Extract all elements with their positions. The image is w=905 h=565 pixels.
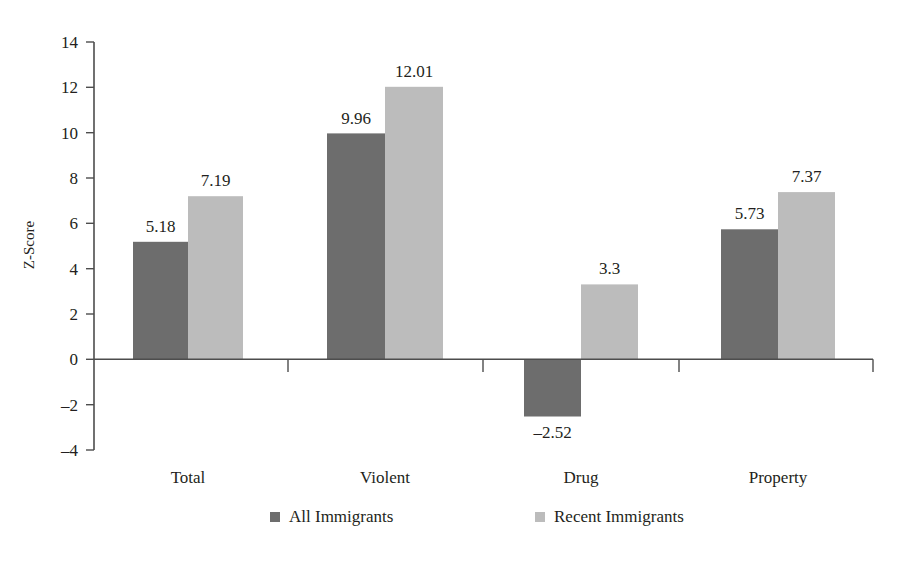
bar-group-violent: 9.96 12.01	[327, 62, 443, 359]
value-label-property-all-immigrants: 5.73	[735, 204, 765, 223]
bar-chart: Z-Score 14 12 10 8 6 4 2 0 –2 –4	[0, 0, 905, 565]
y-axis-title: Z-Score	[21, 221, 37, 270]
y-tick-label-10: 10	[61, 124, 78, 143]
value-label-total-recent-immigrants: 7.19	[201, 171, 231, 190]
y-axis-ticks	[86, 42, 94, 450]
value-label-violent-all-immigrants: 9.96	[341, 109, 371, 128]
y-tick-label-6: 6	[70, 214, 79, 233]
y-tick-label-8: 8	[70, 169, 79, 188]
category-label-total: Total	[171, 468, 206, 487]
legend-label-all-immigrants: All Immigrants	[289, 507, 393, 526]
legend-swatch-all-immigrants	[270, 512, 280, 522]
value-label-drug-recent-immigrants: 3.3	[599, 259, 620, 278]
bar-drug-all-immigrants	[524, 359, 581, 416]
bar-total-recent-immigrants	[188, 196, 243, 359]
y-tick-label-0: 0	[70, 350, 79, 369]
legend-swatch-recent-immigrants	[535, 512, 545, 522]
value-label-violent-recent-immigrants: 12.01	[395, 62, 433, 81]
category-label-violent: Violent	[360, 468, 410, 487]
bar-drug-recent-immigrants	[581, 284, 638, 359]
value-label-property-recent-immigrants: 7.37	[792, 167, 822, 186]
x-axis-category-labels: Total Violent Drug Property	[171, 468, 808, 487]
bar-group-total: 5.18 7.19	[133, 171, 243, 359]
y-axis-tick-labels: 14 12 10 8 6 4 2 0 –2 –4	[60, 33, 79, 460]
y-tick-label-12: 12	[61, 78, 78, 97]
value-label-total-all-immigrants: 5.18	[146, 217, 176, 236]
y-tick-label-14: 14	[61, 33, 79, 52]
y-tick-label-2: 2	[70, 305, 79, 324]
value-label-drug-all-immigrants: –2.52	[532, 423, 571, 442]
bar-property-all-immigrants	[721, 229, 778, 359]
legend-item-recent-immigrants[interactable]: Recent Immigrants	[535, 507, 684, 526]
bar-violent-all-immigrants	[327, 133, 385, 359]
bar-group-drug: –2.52 3.3	[524, 259, 638, 442]
category-label-drug: Drug	[564, 468, 599, 487]
bar-violent-recent-immigrants	[385, 87, 443, 360]
legend-label-recent-immigrants: Recent Immigrants	[554, 507, 684, 526]
bar-total-all-immigrants	[133, 242, 188, 359]
y-tick-label-4: 4	[70, 260, 79, 279]
chart-legend: All Immigrants Recent Immigrants	[270, 507, 684, 526]
legend-item-all-immigrants[interactable]: All Immigrants	[270, 507, 393, 526]
bar-group-property: 5.73 7.37	[721, 167, 835, 359]
chart-canvas: Z-Score 14 12 10 8 6 4 2 0 –2 –4	[0, 0, 905, 565]
y-tick-label-neg4: –4	[60, 441, 79, 460]
category-label-property: Property	[749, 468, 808, 487]
y-tick-label-neg2: –2	[60, 396, 78, 415]
bar-property-recent-immigrants	[778, 192, 835, 359]
